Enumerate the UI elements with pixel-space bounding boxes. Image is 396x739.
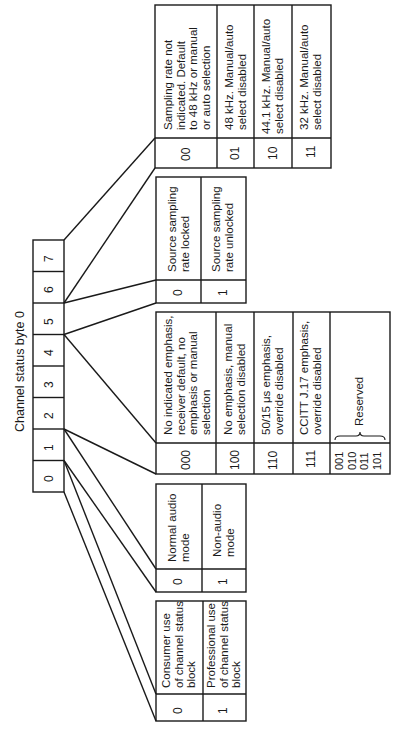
line: select disabled bbox=[311, 25, 324, 130]
line: Sampling rate not bbox=[162, 27, 175, 130]
desc-lock-1: Source sampling rate unlocked bbox=[210, 186, 235, 272]
code-01: 01 bbox=[228, 147, 242, 160]
line: override disabled bbox=[273, 335, 286, 435]
code-110: 110 bbox=[266, 451, 280, 470]
code-use-1: 1 bbox=[216, 707, 230, 714]
bit-5: 5 bbox=[42, 318, 56, 325]
diagram-title: Channel status byte 0 bbox=[13, 311, 27, 432]
line: 001 bbox=[333, 452, 346, 470]
line: CCITT J.17 emphasis, bbox=[298, 321, 311, 435]
line: rate locked bbox=[179, 186, 192, 272]
line: 010 bbox=[346, 452, 359, 470]
line: mode bbox=[224, 504, 237, 557]
code-111: 111 bbox=[304, 450, 318, 468]
line: select disabled bbox=[236, 25, 249, 130]
line: Normal audio bbox=[166, 494, 179, 562]
code-use-0: 0 bbox=[171, 707, 185, 714]
desc-use-1: Professional use of channel status block bbox=[205, 601, 243, 688]
bit-2: 2 bbox=[42, 412, 56, 419]
desc-use-0: Consumer use of channel status block bbox=[160, 601, 198, 688]
line: of channel status bbox=[173, 601, 186, 688]
desc-sampling-01: 48 kHz. Manual/auto select disabled bbox=[223, 25, 248, 130]
line: No emphasis, manual bbox=[222, 324, 235, 435]
desc-audio-0: Normal audio mode bbox=[166, 494, 191, 562]
line: block bbox=[230, 601, 243, 688]
line: 011 bbox=[358, 452, 371, 470]
code-reserved: 001 010 011 101 bbox=[333, 452, 383, 470]
line: Non-audio bbox=[211, 504, 224, 557]
code-lock-0: 0 bbox=[171, 289, 185, 296]
code-11: 11 bbox=[304, 146, 318, 158]
line: selection bbox=[200, 315, 213, 435]
desc-sampling-00: Sampling rate not indicated. Default to … bbox=[162, 27, 212, 130]
code-00: 00 bbox=[179, 148, 193, 161]
line: select disabled bbox=[273, 19, 286, 134]
line: Professional use bbox=[205, 601, 218, 688]
line: rate unlocked bbox=[223, 186, 236, 272]
line: Source sampling bbox=[210, 186, 223, 272]
line: selection disabled bbox=[235, 324, 248, 435]
desc-emph-111: CCITT J.17 emphasis, override disabled bbox=[298, 321, 323, 435]
line: No indicated emphasis, bbox=[162, 315, 175, 435]
desc-lock-0: Source sampling rate locked bbox=[166, 186, 191, 272]
line: 48 kHz. Manual/auto bbox=[223, 25, 236, 130]
line: receiver default, no bbox=[175, 315, 188, 435]
line: block bbox=[185, 601, 198, 688]
desc-emph-110: 50/15 μs emphasis, override disabled bbox=[260, 335, 285, 435]
desc-emph-100: No emphasis, manual selection disabled bbox=[222, 324, 247, 435]
line: 44.1 kHz. Manual/auto bbox=[260, 19, 273, 134]
desc-audio-1: Non-audio mode bbox=[211, 504, 236, 557]
code-000: 000 bbox=[179, 450, 193, 470]
line: emphasis or manual bbox=[187, 315, 200, 435]
desc-reserved: Reserved bbox=[353, 377, 366, 426]
code-10: 10 bbox=[266, 147, 280, 160]
desc-sampling-11: 32 kHz. Manual/auto select disabled bbox=[298, 25, 323, 130]
desc-emph-000: No indicated emphasis, receiver default,… bbox=[162, 315, 212, 435]
desc-sampling-10: 44.1 kHz. Manual/auto select disabled bbox=[260, 19, 285, 134]
line: 101 bbox=[371, 452, 384, 470]
line: Consumer use bbox=[160, 601, 173, 688]
bit-3: 3 bbox=[42, 381, 56, 388]
line: of channel status bbox=[218, 601, 231, 688]
bit-7: 7 bbox=[42, 255, 56, 262]
bit-6: 6 bbox=[42, 286, 56, 293]
line: 50/15 μs emphasis, bbox=[260, 335, 273, 435]
line: or auto selection bbox=[200, 27, 213, 130]
line: mode bbox=[179, 494, 192, 562]
code-audio-0: 0 bbox=[171, 578, 185, 585]
code-audio-1: 1 bbox=[216, 578, 230, 585]
line: indicated. Default bbox=[175, 27, 188, 130]
bit-0: 0 bbox=[42, 475, 56, 482]
line: to 48 kHz or manual bbox=[187, 27, 200, 130]
line: Source sampling bbox=[166, 186, 179, 272]
code-lock-1: 1 bbox=[216, 289, 230, 296]
bit-1: 1 bbox=[42, 444, 56, 451]
line: 32 kHz. Manual/auto bbox=[298, 25, 311, 130]
code-100: 100 bbox=[228, 450, 242, 470]
bit-4: 4 bbox=[42, 349, 56, 356]
line: override disabled bbox=[311, 321, 324, 435]
